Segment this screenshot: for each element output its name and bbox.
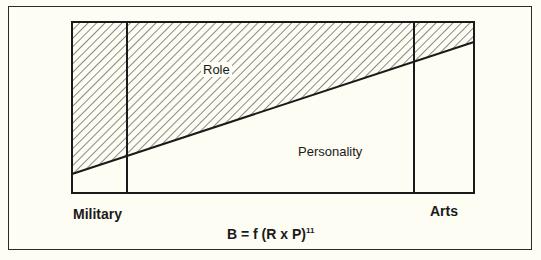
formula-footnote: 11 (306, 226, 314, 235)
military-label: Military (73, 206, 122, 222)
formula-main: B = f (R x P) (227, 226, 306, 242)
behavior-formula: B = f (R x P)11 (227, 226, 314, 242)
arts-label: Arts (430, 203, 458, 219)
personality-label: Personality (296, 144, 364, 159)
role-label: Role (201, 62, 232, 77)
